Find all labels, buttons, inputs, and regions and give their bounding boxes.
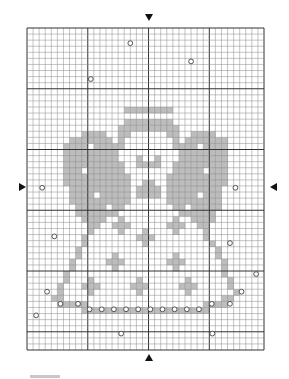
stitch-cell — [100, 180, 106, 186]
stitch-cell — [82, 241, 88, 247]
stitch-cell — [197, 162, 203, 168]
stitch-cell — [179, 180, 185, 186]
stitch-cell — [179, 150, 185, 156]
stitch-cell — [197, 150, 203, 156]
stitch-cell — [88, 277, 94, 283]
stitch-cell — [149, 180, 155, 186]
stitch-cell — [209, 150, 215, 156]
stitch-cell — [173, 162, 179, 168]
stitch-cell — [191, 174, 197, 180]
stitch-cell — [209, 192, 215, 198]
stitch-cell — [76, 180, 82, 186]
stitch-cell — [191, 204, 197, 210]
stitch-cell — [179, 168, 185, 174]
stitch-cell — [191, 180, 197, 186]
stitch-cell — [124, 131, 130, 137]
stitch-cell — [161, 107, 167, 113]
stitch-cell — [88, 156, 94, 162]
stitch-cell — [142, 186, 148, 192]
stitch-cell — [94, 137, 100, 143]
stitch-cell — [124, 174, 130, 180]
bead-marker — [189, 59, 194, 64]
stitch-cell — [112, 186, 118, 192]
stitch-cell — [118, 198, 124, 204]
stitch-cell — [179, 162, 185, 168]
bead-marker — [128, 41, 133, 46]
stitch-cell — [82, 150, 88, 156]
stitch-cell — [82, 210, 88, 216]
stitch-cell — [155, 107, 161, 113]
stitch-cell — [76, 198, 82, 204]
stitch-cell — [197, 180, 203, 186]
stitch-cell — [112, 180, 118, 186]
stitch-cell — [76, 168, 82, 174]
stitch-cell — [82, 156, 88, 162]
stitch-cell — [215, 180, 221, 186]
stitch-cell — [228, 277, 234, 283]
stitch-cell — [82, 137, 88, 143]
stitch-cell — [70, 301, 76, 307]
stitch-cell — [94, 186, 100, 192]
stitch-cell — [179, 143, 185, 149]
bead-marker — [254, 272, 259, 277]
stitch-cell — [197, 168, 203, 174]
stitch-cell — [197, 174, 203, 180]
stitch-cell — [215, 156, 221, 162]
stitch-cell — [76, 150, 82, 156]
bead-marker — [119, 331, 124, 336]
stitch-cell — [94, 216, 100, 222]
stitch-cell — [209, 198, 215, 204]
stitch-cell — [209, 131, 215, 137]
stitch-cell — [63, 277, 69, 283]
stitch-cell — [82, 283, 88, 289]
stitch-cell — [161, 125, 167, 131]
stitch-cell — [221, 150, 227, 156]
stitch-cell — [203, 156, 209, 162]
stitch-cell — [57, 283, 63, 289]
stitch-cell — [63, 156, 69, 162]
stitch-cell — [197, 156, 203, 162]
stitch-cell — [142, 228, 148, 234]
stitch-cell — [112, 156, 118, 162]
stitch-cell — [94, 143, 100, 149]
stitch-cell — [118, 186, 124, 192]
stitch-cell — [209, 162, 215, 168]
stitch-cell — [215, 301, 221, 307]
stitch-cell — [70, 156, 76, 162]
stitch-cell — [100, 143, 106, 149]
stitch-cell — [106, 198, 112, 204]
stitch-cell — [203, 198, 209, 204]
stitch-cell — [209, 143, 215, 149]
stitch-cell — [161, 119, 167, 125]
stitch-cell — [185, 289, 191, 295]
stitch-cell — [76, 162, 82, 168]
stitch-cell — [191, 131, 197, 137]
stitch-cell — [118, 125, 124, 131]
bead-marker — [233, 185, 238, 190]
stitch-cell — [76, 210, 82, 216]
stitch-cell — [209, 156, 215, 162]
stitch-cell — [209, 137, 215, 143]
stitch-cell — [94, 168, 100, 174]
stitch-cell — [203, 228, 209, 234]
stitch-cell — [197, 137, 203, 143]
stitch-cell — [100, 216, 106, 222]
stitch-cell — [82, 301, 88, 307]
stitch-cell — [173, 143, 179, 149]
stitch-cell — [112, 150, 118, 156]
stitch-cell — [209, 168, 215, 174]
stitch-cell — [173, 186, 179, 192]
stitch-cell — [94, 156, 100, 162]
stitch-cell — [167, 125, 173, 131]
stitch-cell — [112, 222, 118, 228]
stitch-cell — [191, 210, 197, 216]
stitch-cell — [149, 235, 155, 241]
stitch-cell — [155, 125, 161, 131]
bead-marker — [239, 289, 244, 294]
stitch-cell — [82, 192, 88, 198]
stitch-cell — [149, 186, 155, 192]
bead-marker — [210, 331, 215, 336]
bead-marker — [40, 185, 45, 190]
bead-marker — [184, 307, 189, 312]
stitch-cell — [173, 192, 179, 198]
